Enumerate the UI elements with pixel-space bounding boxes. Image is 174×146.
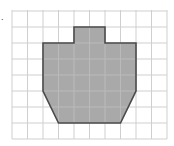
grid-diagram bbox=[0, 0, 174, 146]
shape-outline bbox=[43, 27, 136, 123]
